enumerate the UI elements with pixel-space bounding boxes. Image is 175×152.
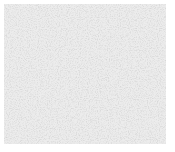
noise-pattern xyxy=(4,4,166,144)
canvas xyxy=(0,0,175,152)
noise-texture-swatch xyxy=(4,4,166,144)
